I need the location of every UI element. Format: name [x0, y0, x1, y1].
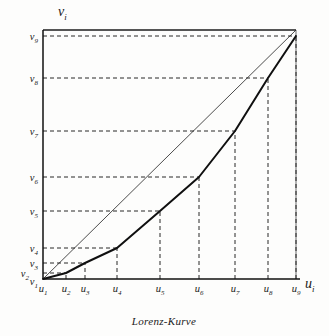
y-tick-label: v1: [30, 276, 38, 290]
x-tick-label: u1: [39, 283, 48, 297]
y-tick-label: v5: [30, 206, 39, 220]
x-tick-label: u9: [292, 283, 301, 297]
x-tick-label: u8: [264, 283, 273, 297]
y-tick-label: v8: [30, 73, 39, 87]
vertical-gridlines: [66, 36, 296, 279]
equality-diagonal-line: [43, 30, 296, 279]
x-tick-label: u2: [62, 283, 71, 297]
y-tick-label: v6: [30, 172, 39, 186]
plot-frame: [43, 30, 300, 279]
x-tick-labels: u1u2u3u4u5u6u7u8u9: [39, 283, 301, 297]
x-tick-label: u7: [231, 283, 240, 297]
y-axis-label: vi: [58, 4, 67, 22]
x-tick-label: u3: [81, 283, 90, 297]
x-tick-label: u6: [195, 283, 204, 297]
y-tick-label: v7: [30, 126, 39, 140]
figure-caption: Lorenz-Kurve: [131, 315, 196, 327]
y-tick-labels: v1v2v3v4v5v6v7v8v9: [21, 31, 39, 290]
y-tick-label: v4: [30, 243, 39, 257]
x-tick-label: u4: [113, 283, 122, 297]
y-tick-label: v3: [30, 258, 39, 272]
x-axis-label: ui: [305, 276, 315, 294]
figure-container: vi ui u1u2u3u4u5u6u7u8u9 v1v2v3v4v5v6v7v…: [0, 0, 329, 336]
x-tick-label: u5: [156, 283, 165, 297]
y-tick-label: v2: [21, 268, 30, 282]
lorenz-curve-chart: vi ui u1u2u3u4u5u6u7u8u9 v1v2v3v4v5v6v7v…: [0, 0, 329, 336]
lorenz-curve-line: [43, 36, 296, 279]
y-tick-label: v9: [30, 31, 39, 45]
